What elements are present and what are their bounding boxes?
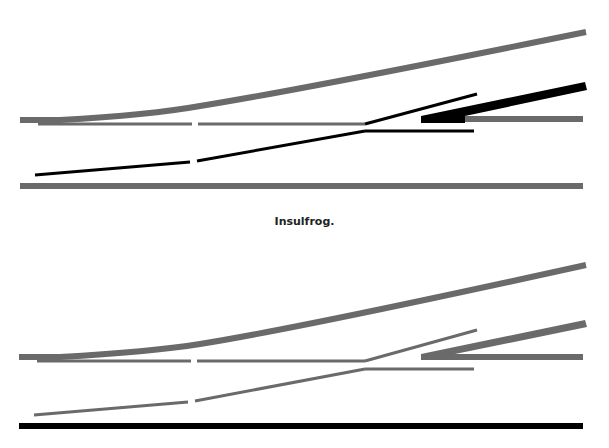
- top-diverging-closure-rail-a: [35, 162, 190, 175]
- top-diverging-closure-rail-b: [197, 131, 365, 161]
- bottom-turnout-diagram: [19, 265, 587, 426]
- bottom-diverging-closure-rail-a: [34, 402, 188, 415]
- top-turnout-diagram: [20, 32, 587, 186]
- bottom-diverging-closure-rail-b: [195, 369, 365, 401]
- diagram-caption: Insulfrog.: [0, 215, 609, 228]
